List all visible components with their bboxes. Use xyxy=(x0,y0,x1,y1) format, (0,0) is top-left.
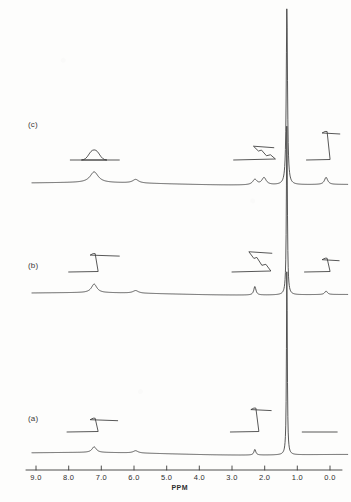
axis-title: PPM xyxy=(172,484,188,491)
axis-tick-label-6.0: 6.0 xyxy=(128,473,139,482)
axis-tick-label-4.0: 4.0 xyxy=(194,473,205,482)
nmr-figure xyxy=(0,0,351,502)
trace-a-spectrum xyxy=(32,272,348,455)
axis-tick-label-7.0: 7.0 xyxy=(96,473,107,482)
axis-tick-label-1.0: 1.0 xyxy=(292,473,303,482)
trace-c-spectrum xyxy=(32,9,348,185)
trace-b-integral-1 xyxy=(232,252,272,272)
spectra-traces-layer xyxy=(32,9,348,455)
trace-b-spectrum xyxy=(32,126,348,295)
ppm-axis xyxy=(26,466,342,470)
axis-tick-label-8.0: 8.0 xyxy=(63,473,74,482)
trace-c-integral-1 xyxy=(234,146,276,160)
axis-tick-label-9.0: 9.0 xyxy=(30,473,41,482)
trace-a xyxy=(32,272,348,455)
trace-label-b: (b) xyxy=(28,261,38,270)
axis-tick-label-2.0: 2.0 xyxy=(259,473,270,482)
axis-tick-label-0.0: 0.0 xyxy=(324,473,335,482)
trace-c xyxy=(32,9,348,185)
trace-label-c: (c) xyxy=(28,120,38,129)
trace-b-integral-2 xyxy=(305,258,340,272)
trace-c-integral-2 xyxy=(306,131,339,160)
trace-label-a: (a) xyxy=(28,414,38,423)
trace-a-integral-1 xyxy=(230,408,271,432)
trace-b-integral-0 xyxy=(69,254,120,272)
axis-tick-label-5.0: 5.0 xyxy=(161,473,172,482)
trace-a-integral-0 xyxy=(67,418,118,432)
trace-b xyxy=(32,126,348,295)
trace-c-integral-0 xyxy=(70,150,119,160)
axis-tick-label-3.0: 3.0 xyxy=(226,473,237,482)
